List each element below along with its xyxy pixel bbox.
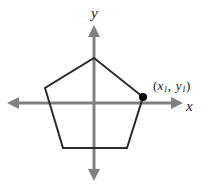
x-axis-left-arrowhead	[7, 97, 19, 109]
y-axis-top-arrowhead	[88, 25, 100, 37]
x-axis-right-arrowhead	[171, 97, 183, 109]
figure-canvas: y x (x1, y1)	[0, 0, 205, 187]
label-close-paren: )	[186, 78, 191, 93]
x-axis-label: x	[186, 99, 193, 114]
y-axis-bottom-arrowhead	[88, 169, 100, 181]
vertex-point-marker	[139, 93, 147, 101]
y-axis-label: y	[91, 6, 98, 21]
label-comma: ,	[168, 78, 171, 93]
point-coordinate-label: (x1, y1)	[153, 79, 190, 96]
axes-group	[7, 25, 183, 181]
